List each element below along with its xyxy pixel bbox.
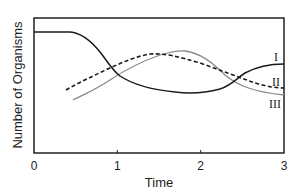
x-tick-labels: 0 1 2 3 <box>31 159 288 173</box>
series-II-line <box>66 54 284 90</box>
series-III-label: III <box>269 97 281 111</box>
x-tick-2: 2 <box>197 159 204 173</box>
population-chart: 0 1 2 3 Time Number of Organisms I II II… <box>0 0 299 196</box>
x-axis-title: Time <box>145 175 173 190</box>
y-axis-title: Number of Organisms <box>10 21 25 149</box>
plot-frame <box>34 18 284 153</box>
series-II-label: II <box>272 75 280 89</box>
x-tick-1: 1 <box>114 159 121 173</box>
series-I-label: I <box>274 50 278 64</box>
x-tick-3: 3 <box>281 159 288 173</box>
series-I-line <box>34 32 284 93</box>
x-tick-0: 0 <box>31 159 38 173</box>
